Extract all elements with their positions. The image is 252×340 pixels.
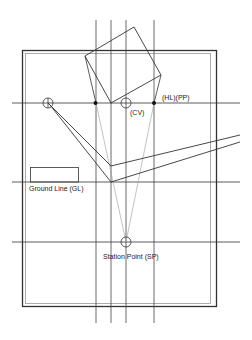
corner-line-right (154, 75, 161, 103)
corner-line-left (85, 56, 96, 103)
label-station-point: Station Point (SP) (103, 253, 159, 261)
frame-inner-border (26, 54, 211, 304)
ground-line-box (31, 168, 79, 183)
perspective-diagram: (HL)(PP) (CV) Ground Line (GL) Station P… (0, 0, 252, 340)
sight-line-right (126, 103, 154, 242)
vanishing-line-lower (111, 142, 240, 182)
vp-line-upper (48, 103, 111, 166)
vanishing-line-upper (111, 135, 240, 166)
vp-line-lower (50, 105, 111, 182)
intersection-dot-left (94, 101, 98, 105)
label-ground-line: Ground Line (GL) (29, 185, 83, 193)
frame-outer-border (23, 51, 217, 307)
label-hl-pp: (HL)(PP) (162, 94, 190, 102)
label-cv: (CV) (130, 109, 144, 117)
intersection-dot-right (152, 101, 156, 105)
frame (23, 51, 217, 307)
